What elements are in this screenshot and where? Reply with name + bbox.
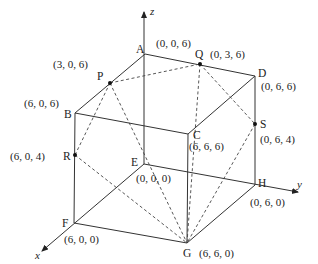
vertex-d-label: D bbox=[258, 67, 266, 79]
vertex-g-label: G bbox=[183, 247, 191, 259]
z-axis-label: z bbox=[150, 5, 154, 17]
vertex-b-label: B bbox=[64, 108, 72, 120]
point-q-marker bbox=[198, 62, 202, 66]
vertex-b-coord: (6, 0, 6) bbox=[24, 97, 59, 109]
solid-edges bbox=[74, 54, 255, 243]
solid-edge-gh bbox=[187, 185, 255, 243]
vertex-h-label: H bbox=[258, 177, 266, 189]
point-p-label: P bbox=[97, 70, 103, 82]
point-s-coord: (0, 6, 4) bbox=[260, 133, 295, 145]
point-q-label: Q bbox=[195, 48, 203, 60]
point-s-marker bbox=[253, 122, 257, 126]
solid-edge-cg bbox=[187, 134, 188, 243]
vertex-e-coord: (0, 0, 0) bbox=[136, 172, 171, 184]
vertex-a-coord: (0, 0, 6) bbox=[156, 37, 191, 49]
point-s-label: S bbox=[260, 118, 266, 130]
point-r-coord: (6, 0, 4) bbox=[10, 150, 45, 162]
solid-edge-cd bbox=[188, 76, 255, 134]
vertex-c-coord: (6, 6, 6) bbox=[189, 140, 224, 152]
point-r-marker bbox=[73, 153, 77, 157]
solid-edge-bc bbox=[75, 113, 188, 134]
dashed-edge-pg bbox=[110, 83, 187, 243]
vertex-f-label: F bbox=[62, 217, 68, 229]
vertex-a-label: A bbox=[136, 43, 144, 55]
solid-edge-bf bbox=[74, 113, 75, 223]
vertex-d-coord: (0, 6, 6) bbox=[261, 80, 296, 92]
vertex-f-coord: (6, 0, 0) bbox=[64, 233, 99, 245]
vertex-g-coord: (6, 6, 0) bbox=[199, 247, 234, 259]
point-q-coord: (0, 3, 6) bbox=[210, 48, 245, 60]
dashed-edge-qg bbox=[187, 64, 200, 243]
point-r-label: R bbox=[63, 150, 71, 162]
y-axis-label: y bbox=[297, 178, 302, 190]
dashed-edge-qs bbox=[200, 64, 255, 124]
point-p-marker bbox=[108, 81, 112, 85]
x-axis-label: x bbox=[35, 249, 40, 261]
dashed-edge-rg bbox=[75, 155, 187, 243]
vertex-h-coord: (0, 6, 0) bbox=[250, 196, 285, 208]
dashed-edge-pq bbox=[110, 64, 200, 83]
vertex-e-label: E bbox=[131, 156, 138, 168]
point-p-coord: (3, 0, 6) bbox=[53, 58, 88, 70]
